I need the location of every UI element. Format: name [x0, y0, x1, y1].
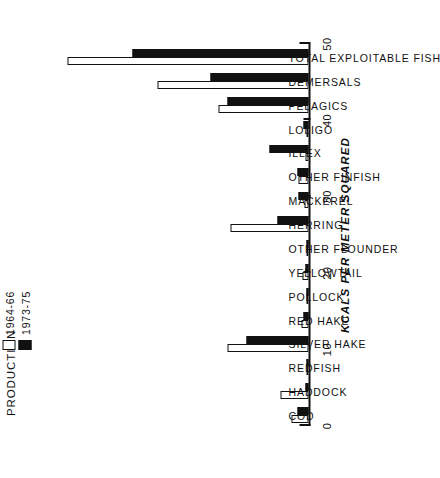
category-label: COD — [288, 410, 314, 422]
bar — [157, 81, 308, 89]
category-label: ILLEX — [288, 147, 321, 159]
legend-label: 1964-66 — [3, 291, 15, 335]
category-label: SILVER HAKE — [288, 338, 366, 350]
axis-tick-label: 50 — [320, 37, 332, 50]
category-label: HERRING — [288, 219, 343, 231]
chart-legend: 1964-66 1973-75 — [2, 291, 31, 350]
category-label: YELLOWTAIL — [288, 267, 362, 279]
legend-item: 1964-66 — [2, 291, 15, 350]
bar — [132, 49, 308, 57]
bar-groups — [28, 44, 308, 426]
category-label: POLLOCK — [288, 291, 344, 303]
axis-tick-label: 0 — [320, 423, 332, 430]
bar-group — [67, 49, 308, 65]
bar-group — [157, 73, 308, 89]
value-axis-title: KCALS PER METER SQUARED — [338, 44, 350, 426]
legend-swatch-white — [2, 340, 15, 350]
plot-area: 01020304050 — [28, 44, 310, 426]
category-label: OTHER FINFISH — [288, 171, 380, 183]
category-label: LOLIGO — [288, 124, 333, 136]
bar — [67, 57, 308, 65]
category-label: TOTAL EXPLOITABLE FISH — [288, 52, 440, 64]
category-label: REDFISH — [288, 362, 340, 374]
